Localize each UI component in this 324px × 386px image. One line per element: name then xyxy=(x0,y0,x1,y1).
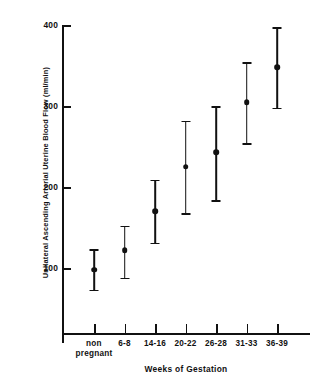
y-axis-tick-label: 400 xyxy=(18,20,58,30)
x-axis-tick-label: 6-8 xyxy=(118,339,131,349)
x-axis-tick xyxy=(125,324,127,334)
x-axis-tick-label-line: pregnant xyxy=(75,349,112,359)
x-axis-title: Weeks of Gestation xyxy=(62,364,310,374)
x-axis-tick xyxy=(155,324,157,334)
y-axis-tick xyxy=(63,25,71,27)
y-axis-tick xyxy=(63,268,71,270)
x-axis-tick-label: 36-39 xyxy=(266,339,288,349)
errorbar-cap-lower xyxy=(120,278,129,280)
x-axis-tick-label: 31-33 xyxy=(235,339,257,349)
uterine-blood-flow-chart: Unilateral Ascending Arterial Uterine Bl… xyxy=(0,0,324,386)
x-axis-tick-label-line: non xyxy=(75,339,112,349)
data-point-marker xyxy=(244,99,250,105)
errorbar-cap-lower xyxy=(90,290,99,292)
errorbar-cap-lower xyxy=(151,243,160,245)
y-axis-line xyxy=(62,25,64,343)
y-axis-tick xyxy=(63,106,71,108)
errorbar-cap-upper xyxy=(120,226,129,228)
x-axis-tick-label: nonpregnant xyxy=(75,339,112,359)
x-axis-tick-label-line: 36-39 xyxy=(266,339,288,349)
errorbar-cap-upper xyxy=(212,106,221,108)
errorbar-cap-upper xyxy=(181,121,190,123)
data-point-marker xyxy=(122,247,128,253)
data-point-marker xyxy=(274,64,280,70)
x-axis-tick xyxy=(94,324,96,334)
y-axis-tick-label: 200 xyxy=(18,182,58,192)
y-axis-tick xyxy=(63,187,71,189)
x-axis-tick-label: 14-16 xyxy=(144,339,166,349)
x-axis-tick-label-line: 6-8 xyxy=(118,339,131,349)
x-axis-tick-label: 20-22 xyxy=(174,339,196,349)
errorbar-cap-upper xyxy=(273,27,282,29)
errorbar-cap-upper xyxy=(242,62,251,64)
data-point-marker xyxy=(183,164,189,170)
x-axis-tick-label-line: 14-16 xyxy=(144,339,166,349)
errorbar-cap-lower xyxy=(242,143,251,145)
x-axis-tick xyxy=(277,324,279,334)
errorbar-cap-upper xyxy=(151,180,160,182)
x-axis-tick xyxy=(216,324,218,334)
errorbar-cap-upper xyxy=(90,249,99,251)
errorbar-cap-lower xyxy=(273,108,282,110)
data-point-marker xyxy=(152,209,158,215)
data-point-marker xyxy=(91,267,97,273)
y-axis-tick-label: 300 xyxy=(18,101,58,111)
errorbar-cap-lower xyxy=(181,213,190,215)
x-axis-tick-label-line: 20-22 xyxy=(174,339,196,349)
x-axis-tick-label-line: 31-33 xyxy=(235,339,257,349)
plot-area: 100200300400 nonpregnant6-814-1620-2226-… xyxy=(62,20,310,332)
y-axis-tick-label: 100 xyxy=(18,263,58,273)
data-point-marker xyxy=(213,149,219,155)
x-axis-tick-label: 26-28 xyxy=(205,339,227,349)
x-axis-tick xyxy=(186,324,188,334)
errorbar-cap-lower xyxy=(212,200,221,202)
x-axis-tick xyxy=(247,324,249,334)
x-axis-tick-label-line: 26-28 xyxy=(205,339,227,349)
